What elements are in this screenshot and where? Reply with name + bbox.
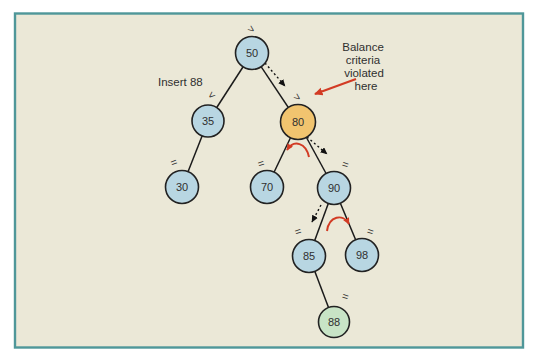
node-value-70: 70 (261, 181, 273, 193)
node-value-90: 90 (328, 182, 340, 194)
node-value-30: 30 (176, 181, 188, 193)
node-value-50: 50 (246, 47, 258, 59)
balance-note-line-2: criteria (346, 54, 381, 66)
tree-node-50: 50 (236, 37, 269, 70)
balance-note-line-4: here (354, 80, 377, 92)
balance-note-line-1: Balance (342, 41, 384, 53)
balance-note-line-3: violated (344, 67, 384, 79)
avl-tree-insert-figure: 50 35 80 30 70 90 (0, 0, 538, 361)
tree-node-85: 85 (293, 240, 326, 273)
tree-node-70: 70 (251, 171, 284, 204)
tree-node-30: 30 (166, 171, 199, 204)
tree-node-80-violated: 80 (281, 105, 316, 140)
node-value-88: 88 (328, 316, 340, 328)
node-value-80: 80 (292, 116, 304, 128)
textbook-figure-page: 50 35 80 30 70 90 (0, 0, 538, 361)
node-value-85: 85 (303, 250, 315, 262)
tree-node-35: 35 (192, 105, 224, 137)
node-value-35: 35 (202, 115, 214, 127)
tree-node-90: 90 (318, 172, 351, 205)
tree-node-98: 98 (346, 239, 379, 272)
tree-node-88-new: 88 (319, 307, 350, 338)
insert-label: Insert 88 (158, 76, 203, 88)
node-value-98: 98 (356, 249, 368, 261)
